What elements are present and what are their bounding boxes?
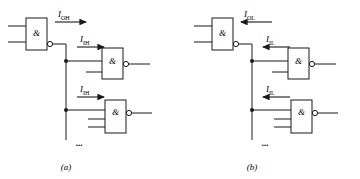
panel-b-output-current: IOL: [241, 9, 272, 22]
panel-a-continuation: ...: [76, 138, 83, 148]
svg-text:IOL: IOL: [243, 9, 255, 21]
and-symbol: &: [112, 107, 119, 117]
panel-b-load-1-current: IIL: [263, 34, 290, 47]
panel-a-caption: (a): [61, 162, 72, 172]
inverting-bubble-icon: [312, 110, 317, 115]
panel-a-output-bus: [53, 44, 68, 140]
panel-b-load-2-current: IIL: [263, 84, 290, 97]
and-symbol: &: [219, 28, 226, 38]
panel-a-output-current: IOH: [55, 9, 86, 22]
iih-label-sub: IH: [83, 40, 90, 46]
panel-b-load-gate-1[interactable]: &: [252, 48, 336, 79]
svg-text:IIH: IIH: [79, 34, 90, 46]
inverting-bubble-icon: [233, 41, 238, 46]
panel-a-load-gate-1[interactable]: &: [66, 48, 150, 79]
panel-b-output-bus: [239, 44, 254, 140]
ioh-label-sub: OH: [61, 15, 70, 21]
figure-canvas: & IOH &: [0, 0, 360, 179]
svg-text:IIH: IIH: [79, 84, 90, 96]
inverting-bubble-icon: [309, 61, 314, 66]
iil-label-sub: IL: [269, 90, 275, 96]
svg-text:IIL: IIL: [265, 84, 275, 96]
svg-text:IOH: IOH: [57, 9, 70, 21]
inverting-bubble-icon: [47, 41, 52, 46]
panel-a-load-gate-2[interactable]: &: [66, 100, 152, 133]
inverting-bubble-icon: [123, 61, 128, 66]
iih-label-sub: IH: [83, 90, 90, 96]
panel-b: & IOL &: [194, 9, 338, 140]
and-symbol: &: [109, 56, 116, 66]
iol-label-sub: OL: [247, 15, 255, 21]
and-symbol: &: [295, 56, 302, 66]
panel-a-load-2-current: IIH: [77, 84, 104, 97]
iil-label-sub: IL: [269, 40, 275, 46]
panel-b-driving-gate[interactable]: &: [194, 18, 239, 50]
panel-b-caption: (b): [247, 162, 258, 172]
and-symbol: &: [298, 107, 305, 117]
inverting-bubble-icon: [126, 110, 131, 115]
panel-b-continuation: ...: [262, 138, 269, 148]
panel-b-load-gate-2[interactable]: &: [252, 100, 338, 133]
panel-a-load-1-current: IIH: [77, 34, 104, 47]
panel-a-driving-gate[interactable]: &: [8, 18, 53, 50]
svg-text:IIL: IIL: [265, 34, 275, 46]
circuit-diagram-svg: & IOH &: [0, 0, 360, 179]
and-symbol: &: [33, 28, 40, 38]
panel-a: & IOH &: [8, 9, 152, 140]
